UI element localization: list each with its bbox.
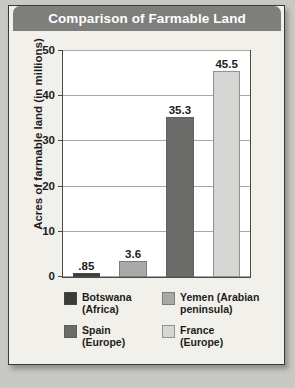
legend-label-line2: (Europe): [180, 336, 223, 348]
y-tick-label: 50: [42, 44, 55, 56]
chart-plot-region: Acres of farmable land (in millions) 010…: [9, 32, 286, 282]
y-tick-mark: [58, 231, 62, 232]
legend-label-line2: (Europe): [82, 336, 125, 348]
legend-item: France(Europe): [162, 324, 272, 348]
legend-label-line1: France: [180, 324, 223, 336]
legend-item-label: France(Europe): [180, 324, 223, 348]
page-title: Comparison of Farmable Land: [48, 11, 246, 26]
y-tick-label: 30: [42, 134, 55, 146]
y-tick-mark: [58, 140, 62, 141]
chart-card: Comparison of Farmable Land Acres of far…: [8, 5, 285, 365]
bar-value-label: 35.3: [169, 104, 191, 116]
legend-swatch: [64, 325, 77, 338]
bar: 3.6: [119, 261, 147, 277]
legend-item: Spain(Europe): [64, 324, 156, 348]
gridline: 50: [63, 50, 250, 51]
bar-value-label: .85: [78, 260, 94, 272]
bar: 35.3: [166, 117, 194, 277]
legend-swatch: [162, 292, 175, 305]
y-tick-label: 40: [42, 89, 55, 101]
bar: .85: [73, 273, 101, 277]
legend-label-line1: Spain: [82, 324, 125, 336]
legend-label-line2: peninsula): [180, 303, 259, 315]
y-tick-mark: [58, 50, 62, 51]
y-tick-mark: [58, 95, 62, 96]
legend-label-line1: Yemen (Arabian: [180, 291, 259, 303]
legend-label-line2: (Africa): [82, 303, 132, 315]
y-tick-label: 20: [42, 180, 55, 192]
legend-item-label: Spain(Europe): [82, 324, 125, 348]
legend-swatch: [162, 325, 175, 338]
y-tick-mark: [58, 186, 62, 187]
legend-swatch: [64, 292, 77, 305]
chart-title-bar: Comparison of Farmable Land: [13, 6, 281, 31]
y-tick-label: 10: [42, 225, 55, 237]
legend-item-label: Botswana(Africa): [82, 291, 132, 315]
y-tick-mark: [58, 276, 62, 277]
plot-area: 01020304050 .853.635.345.5: [62, 50, 251, 278]
y-tick-label: 0: [49, 270, 55, 282]
bar: 45.5: [213, 71, 241, 277]
legend-item-label: Yemen (Arabianpeninsula): [180, 291, 259, 315]
legend-label-line1: Botswana: [82, 291, 132, 303]
legend-item: Botswana(Africa): [64, 291, 156, 315]
bar-value-label: 45.5: [215, 58, 237, 70]
legend-item: Yemen (Arabianpeninsula): [162, 291, 272, 315]
chart-legend: Botswana(Africa)Yemen (Arabianpeninsula)…: [64, 291, 279, 348]
bar-value-label: 3.6: [125, 248, 141, 260]
